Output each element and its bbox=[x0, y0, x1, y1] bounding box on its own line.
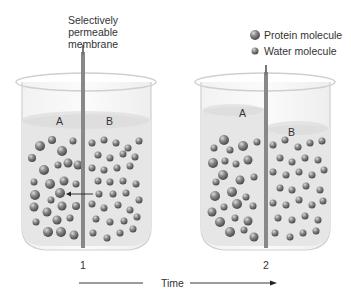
protein-molecule-icon bbox=[250, 30, 260, 40]
membrane-label: Selectively permeable membrane bbox=[58, 14, 128, 50]
beaker-2-number: 2 bbox=[263, 259, 269, 271]
beaker-1-side-a: A bbox=[56, 115, 63, 127]
water-molecule-icon bbox=[252, 48, 259, 55]
legend-water: Water molecule bbox=[264, 45, 337, 57]
beaker-2-side-b: B bbox=[288, 126, 295, 138]
membrane-1 bbox=[81, 52, 85, 248]
membrane-label-line: Selectively bbox=[58, 14, 128, 26]
membrane-label-line: permeable bbox=[58, 26, 128, 38]
beaker-2-side-a: A bbox=[239, 107, 246, 119]
membrane-2 bbox=[264, 72, 268, 248]
legend-protein: Protein molecule bbox=[264, 29, 342, 41]
beaker-1 bbox=[16, 45, 156, 250]
membrane-label-line: membrane bbox=[58, 38, 128, 50]
beaker-1-number: 1 bbox=[80, 259, 86, 271]
beaker-2 bbox=[195, 65, 335, 250]
time-label: Time bbox=[161, 277, 184, 289]
beaker-1-side-b: B bbox=[106, 115, 113, 127]
